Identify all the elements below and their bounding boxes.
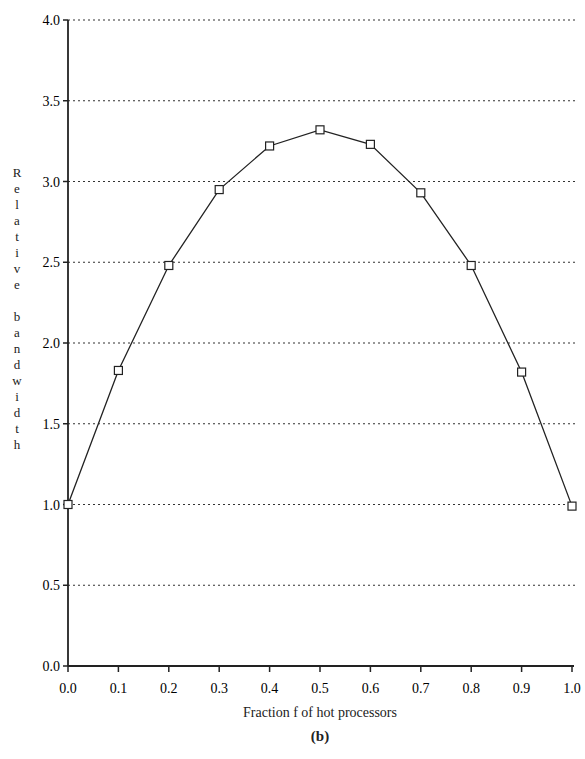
y-tick-label: 0.5 — [43, 578, 61, 593]
y-tick-label: 4.0 — [43, 13, 61, 28]
figure-caption: (b) — [0, 728, 585, 745]
x-tick-label: 0.6 — [362, 681, 380, 696]
square-marker — [316, 126, 324, 134]
square-marker — [266, 142, 274, 150]
y-tick-label: 2.0 — [43, 336, 61, 351]
line-chart: 0.00.51.01.52.02.53.03.54.00.00.10.20.30… — [0, 0, 585, 759]
square-marker — [568, 502, 576, 510]
x-tick-label: 1.0 — [563, 681, 581, 696]
x-tick-label: 0.5 — [311, 681, 329, 696]
x-tick-label: 0.0 — [59, 681, 77, 696]
square-marker — [165, 261, 173, 269]
x-tick-label: 0.7 — [412, 681, 430, 696]
x-tick-label: 0.3 — [210, 681, 228, 696]
square-marker — [366, 140, 374, 148]
x-axis-label: Fraction f of hot processors — [0, 705, 585, 721]
y-tick-label: 1.0 — [43, 498, 61, 513]
y-tick-label: 2.5 — [43, 255, 61, 270]
square-marker — [518, 368, 526, 376]
x-tick-label: 0.2 — [160, 681, 178, 696]
square-marker — [64, 501, 72, 509]
square-marker — [215, 186, 223, 194]
square-marker — [114, 366, 122, 374]
y-tick-label: 3.5 — [43, 94, 61, 109]
square-marker — [417, 189, 425, 197]
x-tick-label: 0.4 — [261, 681, 279, 696]
x-tick-label: 0.9 — [513, 681, 531, 696]
y-tick-label: 0.0 — [43, 659, 61, 674]
y-axis-label: R e l a t i v e b a n d w i d t h — [10, 165, 24, 453]
y-tick-label: 1.5 — [43, 417, 61, 432]
x-tick-label: 0.8 — [462, 681, 480, 696]
square-marker — [467, 261, 475, 269]
y-tick-label: 3.0 — [43, 175, 61, 190]
data-line — [68, 130, 572, 506]
x-tick-label: 0.1 — [110, 681, 128, 696]
